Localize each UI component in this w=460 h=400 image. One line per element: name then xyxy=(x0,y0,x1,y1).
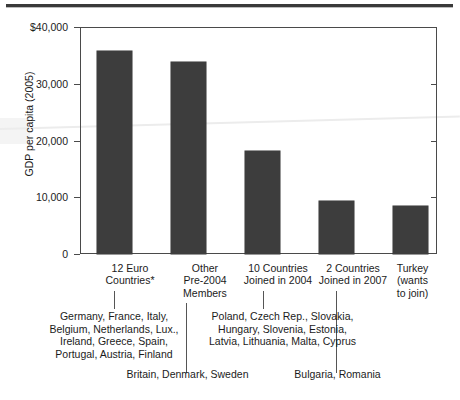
annotation-joined-2004-list: Poland, Czech Rep., Slovakia, Hungary, S… xyxy=(190,310,375,348)
y-tick-label-40000: $40,000 xyxy=(30,22,68,33)
y-tick-mark-0 xyxy=(74,254,80,255)
y-tick-label-0: 0 xyxy=(62,249,68,260)
y-axis-title: GDP per capita (2005) xyxy=(23,29,35,219)
y-tick-label-10000: 10,000 xyxy=(36,192,68,203)
bar-2-countries-joined-2007[interactable] xyxy=(319,201,354,254)
bar-other-pre-2004-members[interactable] xyxy=(171,62,206,254)
y-tick-label-30000: 30,000 xyxy=(36,79,68,90)
annotation-joined-2007-list: Bulgaria, Romania xyxy=(270,368,405,381)
leader-line-joined-2004 xyxy=(263,291,264,309)
leader-line-euro-countries xyxy=(114,291,115,309)
top-rule-shadow xyxy=(6,7,453,8)
bar-turkey[interactable] xyxy=(393,206,428,254)
bar-12-euro-countries[interactable] xyxy=(97,51,132,254)
bar-10-countries-joined-2004[interactable] xyxy=(245,151,280,254)
x-category-label-turkey: Turkey (wants to join) xyxy=(370,262,455,299)
annotation-euro-countries-list: Germany, France, Italy, Belgium, Netherl… xyxy=(14,310,214,360)
annotation-pre-2004-members-list: Britain, Denmark, Sweden xyxy=(100,368,275,381)
y-tick-label-20000: 20,000 xyxy=(36,136,68,147)
